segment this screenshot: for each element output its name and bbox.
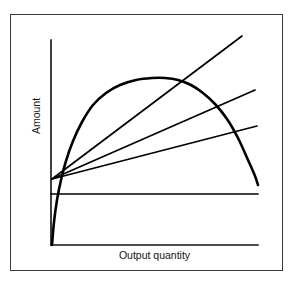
- axes-group: [51, 40, 258, 245]
- x-axis-label: Output quantity: [51, 249, 258, 261]
- figure-root: Amount Output quantity: [0, 0, 295, 285]
- series-group: [51, 36, 258, 245]
- plot-canvas: [0, 0, 295, 285]
- y-axis-label: Amount: [30, 78, 42, 154]
